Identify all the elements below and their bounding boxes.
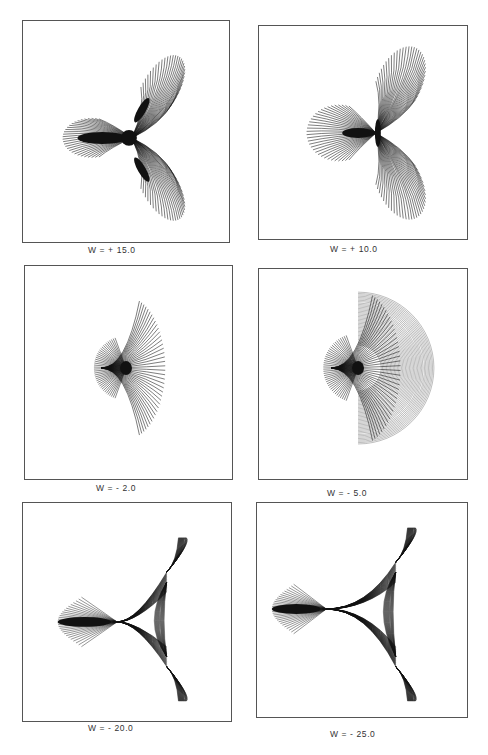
panel-caption: W = - 5.0 bbox=[327, 488, 367, 498]
curve-family-plot bbox=[257, 503, 467, 717]
plot-panel-w-minus-2 bbox=[24, 265, 233, 480]
curve-family-plot bbox=[23, 21, 229, 242]
plot-panel-w-minus-20 bbox=[22, 502, 232, 722]
plot-panel-w-minus-5 bbox=[258, 268, 468, 480]
panel-caption: W = - 2.0 bbox=[96, 483, 136, 493]
plot-panel-w-plus-15 bbox=[22, 20, 230, 243]
panel-caption: W = + 10.0 bbox=[330, 244, 378, 254]
curve-family-plot bbox=[23, 503, 231, 721]
panel-caption: W = + 15.0 bbox=[88, 245, 136, 255]
curve-family-plot bbox=[25, 266, 232, 479]
curve-family-plot bbox=[259, 269, 467, 479]
panel-caption: W = - 25.0 bbox=[330, 729, 375, 739]
plot-panel-w-plus-10 bbox=[258, 25, 468, 240]
curve-family-plot bbox=[259, 26, 467, 239]
panel-caption: W = - 20.0 bbox=[88, 723, 133, 733]
plot-panel-w-minus-25 bbox=[256, 502, 468, 718]
